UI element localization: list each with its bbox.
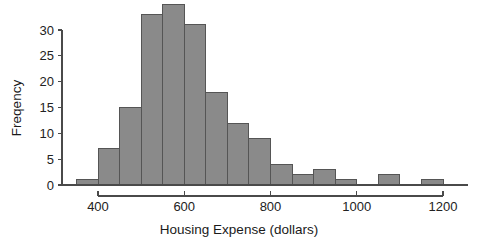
y-axis-title: Freqency [9, 80, 24, 137]
histogram-bar [292, 175, 314, 185]
y-tick-label: 25 [40, 48, 54, 63]
x-tick-label: 800 [260, 199, 282, 214]
histogram-svg: 051015202530 40060080010001200 Housing E… [0, 0, 479, 248]
x-tick-label: 600 [173, 199, 195, 214]
histogram-bar [271, 164, 293, 185]
y-tick-label: 0 [47, 178, 54, 193]
y-tick-label: 30 [40, 23, 54, 38]
y-tick-label: 5 [47, 152, 54, 167]
x-tick-label: 1000 [342, 199, 371, 214]
histogram-bar [206, 92, 228, 185]
histogram-chart: 051015202530 40060080010001200 Housing E… [0, 0, 479, 248]
histogram-bar [249, 139, 271, 186]
x-tick-label: 400 [87, 199, 109, 214]
histogram-bar [378, 175, 400, 185]
bars-group [76, 4, 443, 185]
histogram-bar [184, 25, 206, 185]
x-tick-label: 1200 [429, 199, 458, 214]
histogram-bar [335, 180, 357, 185]
histogram-bar [98, 149, 120, 185]
y-tick-label: 20 [40, 74, 54, 89]
histogram-bar [314, 170, 336, 186]
x-axis-title: Housing Expense (dollars) [160, 222, 318, 237]
histogram-bar [163, 4, 185, 185]
y-tick-label: 15 [40, 100, 54, 115]
histogram-bar [227, 123, 249, 185]
y-axis: 051015202530 [40, 23, 62, 193]
histogram-bar [421, 180, 443, 185]
histogram-bar [76, 180, 98, 185]
histogram-bar [120, 108, 142, 186]
y-tick-label: 10 [40, 126, 54, 141]
x-axis: 40060080010001200 [62, 185, 468, 214]
histogram-bar [141, 15, 163, 186]
